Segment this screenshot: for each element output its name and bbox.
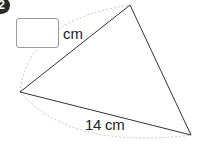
side-length-label: 14 cm xyxy=(85,116,124,133)
answer-input-box[interactable] xyxy=(16,18,59,48)
answer-unit-label: cm xyxy=(63,25,83,42)
